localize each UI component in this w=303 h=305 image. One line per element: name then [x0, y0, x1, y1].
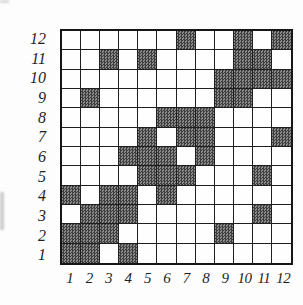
matrix-cell-r10-c2 — [81, 70, 100, 89]
matrix-cell-r11-c4 — [119, 50, 138, 69]
matrix-cell-r11-c9 — [215, 50, 234, 69]
matrix-cell-r6-c7 — [177, 147, 196, 166]
matrix-cell-r5-c3 — [100, 166, 119, 185]
matrix-cell-r3-c1 — [62, 205, 81, 224]
matrix-cell-r4-c5 — [138, 186, 157, 205]
matrix-cell-r2-c11 — [253, 224, 272, 243]
matrix-cell-r4-c11 — [253, 186, 272, 205]
matrix-cell-r12-c1 — [62, 31, 81, 50]
matrix-cell-r7-c4 — [119, 128, 138, 147]
row-label-4: 4 — [0, 186, 48, 206]
matrix-cell-r10-c3 — [100, 70, 119, 89]
col-label-1: 1 — [60, 266, 79, 290]
matrix-cell-r1-c9 — [215, 244, 234, 263]
matrix-cell-r1-c2 — [81, 244, 100, 263]
matrix-cell-r2-c9 — [215, 224, 234, 243]
matrix-cell-r2-c8 — [196, 224, 215, 243]
matrix-cell-r8-c2 — [81, 108, 100, 127]
matrix-cell-r7-c6 — [157, 128, 176, 147]
matrix-cell-r9-c3 — [100, 89, 119, 108]
matrix-cell-r7-c1 — [62, 128, 81, 147]
matrix-cell-r12-c3 — [100, 31, 119, 50]
matrix-cell-r8-c10 — [234, 108, 253, 127]
matrix-cell-r6-c3 — [100, 147, 119, 166]
matrix-cell-r2-c3 — [100, 224, 119, 243]
row-label-8: 8 — [0, 108, 48, 128]
matrix-cell-r1-c5 — [138, 244, 157, 263]
matrix-cell-r5-c11 — [253, 166, 272, 185]
matrix-cell-r10-c9 — [215, 70, 234, 89]
matrix-grid — [60, 29, 293, 265]
matrix-cell-r11-c3 — [100, 50, 119, 69]
matrix-cell-r5-c5 — [138, 166, 157, 185]
matrix-cell-r2-c4 — [119, 224, 138, 243]
matrix-cell-r1-c3 — [100, 244, 119, 263]
matrix-cell-r5-c6 — [157, 166, 176, 185]
matrix-cell-r4-c10 — [234, 186, 253, 205]
matrix-cell-r8-c7 — [177, 108, 196, 127]
matrix-cell-r7-c10 — [234, 128, 253, 147]
matrix-cell-r1-c11 — [253, 244, 272, 263]
matrix-cell-r9-c8 — [196, 89, 215, 108]
matrix-cell-r6-c9 — [215, 147, 234, 166]
matrix-cell-r7-c12 — [272, 128, 291, 147]
matrix-cell-r4-c4 — [119, 186, 138, 205]
matrix-cell-r7-c2 — [81, 128, 100, 147]
matrix-cell-r3-c6 — [157, 205, 176, 224]
matrix-cell-r4-c8 — [196, 186, 215, 205]
scan-artifact-corner — [0, 0, 9, 3]
matrix-cell-r2-c2 — [81, 224, 100, 243]
matrix-cell-r9-c11 — [253, 89, 272, 108]
matrix-cell-r3-c10 — [234, 205, 253, 224]
matrix-cell-r11-c10 — [234, 50, 253, 69]
matrix-cell-r3-c12 — [272, 205, 291, 224]
matrix-cell-r1-c10 — [234, 244, 253, 263]
row-axis-labels: 121110987654321 — [0, 29, 48, 265]
matrix-cell-r1-c1 — [62, 244, 81, 263]
matrix-cell-r2-c10 — [234, 224, 253, 243]
col-label-6: 6 — [157, 266, 176, 290]
row-label-5: 5 — [0, 167, 48, 187]
matrix-cell-r5-c12 — [272, 166, 291, 185]
matrix-cell-r4-c3 — [100, 186, 119, 205]
row-label-11: 11 — [0, 49, 48, 69]
matrix-cell-r5-c1 — [62, 166, 81, 185]
matrix-cell-r5-c4 — [119, 166, 138, 185]
row-label-12: 12 — [0, 29, 48, 49]
matrix-cell-r6-c2 — [81, 147, 100, 166]
matrix-cell-r5-c9 — [215, 166, 234, 185]
row-label-9: 9 — [0, 88, 48, 108]
scan-artifact-left-edge — [0, 192, 4, 230]
matrix-cell-r7-c5 — [138, 128, 157, 147]
matrix-cell-r7-c9 — [215, 128, 234, 147]
col-label-10: 10 — [235, 266, 254, 290]
matrix-cell-r10-c5 — [138, 70, 157, 89]
matrix-cell-r12-c2 — [81, 31, 100, 50]
matrix-cell-r2-c7 — [177, 224, 196, 243]
matrix-cell-r3-c9 — [215, 205, 234, 224]
figure-canvas: 121110987654321 123456789101112 — [0, 0, 303, 305]
matrix-cell-r7-c11 — [253, 128, 272, 147]
row-label-7: 7 — [0, 127, 48, 147]
matrix-cell-r10-c8 — [196, 70, 215, 89]
matrix-cell-r3-c5 — [138, 205, 157, 224]
matrix-cell-r11-c7 — [177, 50, 196, 69]
matrix-cell-r3-c3 — [100, 205, 119, 224]
matrix-cell-r4-c9 — [215, 186, 234, 205]
matrix-cell-r10-c6 — [157, 70, 176, 89]
matrix-cell-r8-c3 — [100, 108, 119, 127]
matrix-cell-r10-c4 — [119, 70, 138, 89]
col-label-4: 4 — [118, 266, 137, 290]
col-label-3: 3 — [99, 266, 118, 290]
matrix-cell-r12-c11 — [253, 31, 272, 50]
row-label-6: 6 — [0, 147, 48, 167]
matrix-cell-r6-c5 — [138, 147, 157, 166]
matrix-cell-r8-c11 — [253, 108, 272, 127]
matrix-cell-r11-c2 — [81, 50, 100, 69]
matrix-cell-r9-c6 — [157, 89, 176, 108]
matrix-cell-r6-c1 — [62, 147, 81, 166]
col-label-12: 12 — [274, 266, 293, 290]
matrix-cell-r10-c12 — [272, 70, 291, 89]
matrix-cell-r4-c12 — [272, 186, 291, 205]
matrix-cell-r9-c9 — [215, 89, 234, 108]
